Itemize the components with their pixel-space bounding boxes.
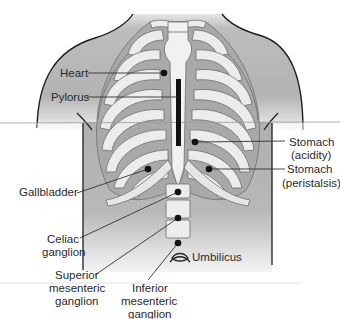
- label-superior-line2: mesenteric: [49, 282, 105, 294]
- label-inferior-line3: ganglion: [128, 308, 171, 319]
- label-celiac-line2: ganglion: [42, 246, 85, 258]
- label-celiac-line1: Celiac: [47, 233, 79, 245]
- label-stomach-peristalsis-line1: Stomach: [287, 163, 332, 175]
- heart-marker: [161, 70, 168, 77]
- inferior-mesenteric-ganglion-marker: [175, 240, 182, 247]
- stomach-acidity-marker: [192, 139, 199, 146]
- label-pylorus: Pylorus: [51, 91, 90, 103]
- label-superior-line1: Superior: [55, 269, 99, 281]
- label-inferior-line1: Inferior: [132, 282, 168, 294]
- label-inferior-line2: mesenteric: [121, 295, 177, 307]
- label-stomach-acidity-line1: Stomach: [289, 136, 334, 148]
- stomach-peristalsis-marker: [206, 166, 213, 173]
- label-stomach-acidity-line2: (acidity): [291, 149, 331, 161]
- pylorus-bar: [176, 79, 181, 146]
- label-gallbladder: Gallbladder: [19, 186, 78, 198]
- label-stomach-peristalsis-line2: (peristalsis): [282, 177, 340, 189]
- celiac-ganglion-marker: [175, 189, 182, 196]
- label-umbilicus: Umbilicus: [192, 251, 242, 263]
- anatomy-figure: Heart Pylorus Stomach (acidity) Stomach …: [0, 0, 340, 319]
- label-superior-line3: ganglion: [55, 295, 98, 307]
- superior-mesenteric-ganglion-marker: [175, 215, 182, 222]
- gallbladder-marker: [145, 166, 152, 173]
- label-heart: Heart: [60, 67, 89, 79]
